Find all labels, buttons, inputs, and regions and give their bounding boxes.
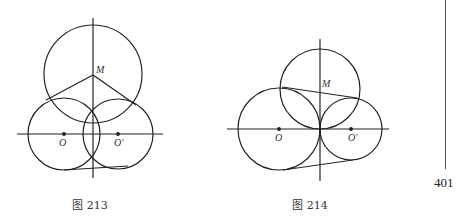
segment-m-right	[93, 75, 136, 105]
page-number: 401	[434, 175, 454, 191]
caption-figure-214: 图 214	[292, 196, 328, 212]
label-o-prime-213: O′	[114, 137, 124, 148]
margin-rule	[445, 0, 446, 169]
figure-214	[227, 39, 389, 181]
figure-213	[17, 18, 163, 178]
label-m-213: M	[95, 64, 105, 75]
segment-m-left	[46, 75, 93, 100]
geometry-figures: M O O′ M O O′	[0, 0, 460, 216]
label-o-prime-214: O′	[348, 132, 358, 143]
point-o	[278, 128, 281, 131]
caption-figure-213: 图 213	[72, 196, 108, 212]
label-o-213: O	[59, 137, 66, 148]
label-m-214: M	[321, 78, 331, 89]
point-o	[63, 133, 66, 136]
bottom-tangent	[283, 160, 353, 170]
point-o-prime	[350, 128, 353, 131]
point-o-prime	[117, 133, 120, 136]
label-o-214: O	[275, 132, 282, 143]
